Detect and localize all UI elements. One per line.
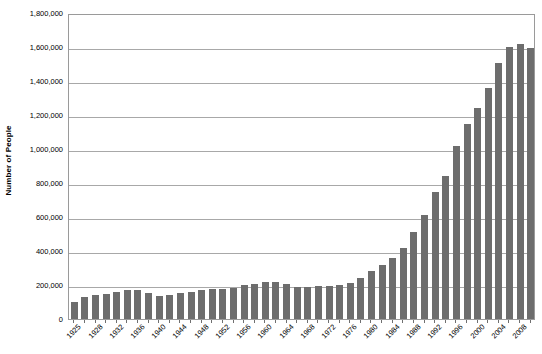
x-tick-label: 1956 — [235, 323, 252, 340]
x-axis-tick-labels: 1925192819321936194019441948195219561960… — [68, 323, 535, 354]
x-tick-label: 1972 — [320, 323, 337, 340]
y-tick-label: 1,800,000 — [30, 10, 63, 18]
bar — [294, 287, 301, 319]
bar — [272, 282, 279, 319]
y-axis-title: Number of People — [0, 0, 16, 320]
x-tick-label: 1964 — [278, 323, 295, 340]
x-tick-label: 1988 — [405, 323, 422, 340]
bar — [134, 290, 141, 319]
bar — [156, 296, 163, 319]
bar — [495, 63, 502, 319]
bar — [464, 124, 471, 319]
y-axis-tick-labels: 1,800,0001,600,0001,400,0001,200,0001,00… — [16, 14, 66, 320]
y-tick-label: 200,000 — [36, 282, 63, 290]
bar — [304, 287, 311, 319]
bar — [166, 295, 173, 319]
x-tick-label: 1944 — [172, 323, 189, 340]
bar — [474, 108, 481, 319]
x-tick-label: 1928 — [87, 323, 104, 340]
bar — [432, 192, 439, 319]
bar — [262, 282, 269, 319]
bar — [145, 293, 152, 319]
bar — [527, 48, 534, 319]
bar — [188, 292, 195, 319]
y-axis-title-label: Number of People — [4, 125, 13, 195]
x-tick-label: 1996 — [448, 323, 465, 340]
x-tick-label: 1980 — [363, 323, 380, 340]
bar — [124, 290, 131, 319]
y-tick-label: 1,200,000 — [30, 112, 63, 120]
bar — [389, 258, 396, 319]
bar — [517, 44, 524, 319]
bar — [241, 285, 248, 319]
bar — [400, 248, 407, 319]
x-tick-label: 1932 — [108, 323, 125, 340]
x-tick-label: 1984 — [384, 323, 401, 340]
x-tick-label: 1925 — [65, 323, 82, 340]
bar — [326, 286, 333, 319]
y-tick-label: 1,400,000 — [30, 78, 63, 86]
x-tick-label: 1976 — [341, 323, 358, 340]
bar — [347, 283, 354, 319]
bar — [92, 295, 99, 319]
y-tick-label: 600,000 — [36, 214, 63, 222]
x-tick-label: 1960 — [257, 323, 274, 340]
bar — [506, 47, 513, 319]
bar — [251, 284, 258, 319]
bar — [177, 293, 184, 319]
y-tick-label: 1,000,000 — [30, 146, 63, 154]
y-tick-label: 0 — [59, 316, 63, 324]
bar — [421, 215, 428, 319]
bar — [315, 286, 322, 319]
x-tick-label: 1940 — [150, 323, 167, 340]
bar — [485, 88, 492, 319]
bar — [219, 289, 226, 319]
bar — [81, 297, 88, 319]
y-tick-label: 400,000 — [36, 248, 63, 256]
x-tick-label: 1968 — [299, 323, 316, 340]
x-tick-label: 2000 — [469, 323, 486, 340]
y-tick-label: 1,600,000 — [30, 44, 63, 52]
x-tick-label: 2008 — [511, 323, 528, 340]
bar — [442, 176, 449, 319]
plot-area — [68, 14, 535, 320]
bar — [230, 288, 237, 319]
bar — [368, 271, 375, 319]
x-tick-label: 2004 — [490, 323, 507, 340]
bar — [336, 285, 343, 319]
bar — [379, 265, 386, 319]
y-tick-label: 800,000 — [36, 180, 63, 188]
x-tick-label: 1948 — [193, 323, 210, 340]
bar — [357, 278, 364, 319]
bar — [283, 284, 290, 319]
bar — [453, 146, 460, 319]
bar — [103, 294, 110, 320]
bar — [71, 302, 78, 319]
bar — [209, 289, 216, 319]
x-tick-label: 1952 — [214, 323, 231, 340]
bar — [410, 232, 417, 319]
bars-layer — [69, 15, 534, 319]
bar-chart: Number of People 1,800,0001,600,0001,400… — [0, 0, 542, 354]
bar — [113, 292, 120, 319]
x-tick-label: 1936 — [129, 323, 146, 340]
x-tick-label: 1992 — [426, 323, 443, 340]
bar — [198, 290, 205, 319]
